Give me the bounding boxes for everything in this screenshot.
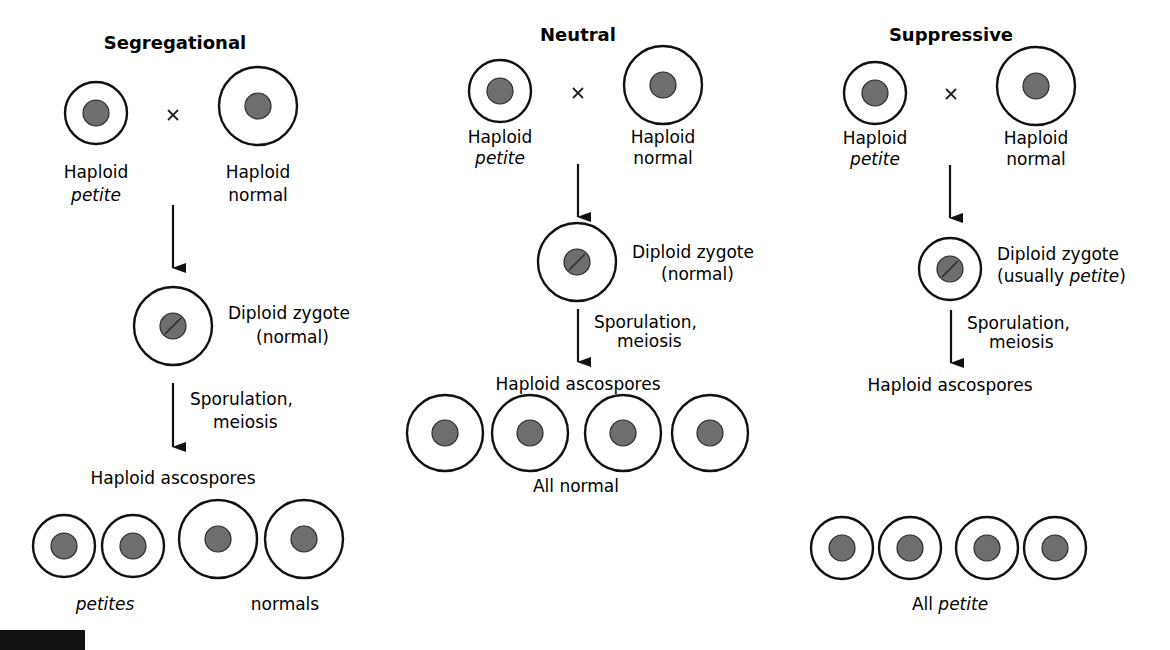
ascospore-normal bbox=[265, 500, 343, 578]
column-title: Segregational bbox=[104, 32, 246, 53]
ascospore-normal bbox=[492, 395, 568, 471]
nucleus bbox=[83, 100, 109, 126]
process-label-2: meiosis bbox=[989, 332, 1054, 352]
parent-normal-cell bbox=[997, 47, 1075, 125]
cross-icon bbox=[168, 110, 178, 120]
diploid-zygote-cell bbox=[919, 238, 981, 300]
ascospore-normal bbox=[407, 395, 483, 471]
cross-icon bbox=[946, 89, 956, 99]
ascospore-petite bbox=[956, 517, 1018, 579]
parent-normal-type: normal bbox=[633, 148, 693, 168]
column-segregational: Segregational Haploid petite Haploid nor… bbox=[33, 32, 350, 614]
parent-normal-label: Haploid bbox=[226, 162, 291, 182]
process-label: Sporulation, bbox=[190, 389, 293, 409]
parent-petite-type: petite bbox=[474, 148, 525, 168]
zygote-label: Diploid zygote bbox=[997, 244, 1119, 264]
process-label-2: meiosis bbox=[617, 331, 682, 351]
nucleus bbox=[245, 93, 271, 119]
ascospore-row bbox=[407, 395, 748, 471]
parent-petite-cell bbox=[469, 60, 531, 122]
zygote-label: Diploid zygote bbox=[632, 242, 754, 262]
column-neutral: Neutral Haploid petite Haploid normal Di… bbox=[407, 24, 754, 496]
parent-petite-label: Haploid bbox=[843, 128, 908, 148]
zygote-type: (normal) bbox=[661, 264, 734, 284]
parent-normal-cell bbox=[624, 46, 702, 124]
ascospore-row bbox=[33, 500, 343, 578]
column-title: Neutral bbox=[540, 24, 616, 45]
parent-normal-type: normal bbox=[228, 185, 288, 205]
page-tab-marker bbox=[0, 630, 85, 650]
parent-normal-label: Haploid bbox=[631, 127, 696, 147]
parent-petite-label: Haploid bbox=[468, 127, 533, 147]
result-label-normals: normals bbox=[251, 594, 320, 614]
ascospore-petite bbox=[811, 517, 873, 579]
ascospore-row bbox=[811, 517, 1086, 579]
parent-petite-cell bbox=[844, 62, 906, 124]
parent-petite-type: petite bbox=[70, 185, 121, 205]
ascospores-label: Haploid ascospores bbox=[495, 374, 660, 394]
parent-normal-label: Haploid bbox=[1004, 128, 1069, 148]
ascospores-label: Haploid ascospores bbox=[90, 468, 255, 488]
ascospore-petite bbox=[879, 517, 941, 579]
ascospore-normal bbox=[672, 395, 748, 471]
zygote-label: Diploid zygote bbox=[228, 303, 350, 323]
parent-petite-cell bbox=[65, 82, 127, 144]
column-title: Suppressive bbox=[889, 24, 1013, 45]
column-suppressive: Suppressive Haploid petite Haploid norma… bbox=[811, 24, 1126, 614]
result-label: All petite bbox=[912, 594, 988, 614]
ascospores-label: Haploid ascospores bbox=[867, 375, 1032, 395]
petite-inheritance-diagram: Segregational Haploid petite Haploid nor… bbox=[0, 0, 1170, 650]
ascospore-petite bbox=[33, 515, 95, 577]
process-label-2: meiosis bbox=[213, 412, 278, 432]
ascospore-normal bbox=[585, 395, 661, 471]
result-label: All normal bbox=[533, 476, 619, 496]
process-label: Sporulation, bbox=[594, 312, 697, 332]
ascospore-petite bbox=[1024, 517, 1086, 579]
cross-icon bbox=[573, 88, 583, 98]
zygote-type: (usually petite) bbox=[997, 266, 1126, 286]
process-label: Sporulation, bbox=[967, 313, 1070, 333]
result-label-petites: petites bbox=[75, 594, 135, 614]
parent-petite-type: petite bbox=[849, 149, 900, 169]
ascospore-petite bbox=[102, 515, 164, 577]
diploid-zygote-cell bbox=[134, 287, 212, 365]
parent-petite-label: Haploid bbox=[64, 162, 129, 182]
diploid-zygote-cell bbox=[538, 223, 616, 301]
zygote-type: (normal) bbox=[256, 327, 329, 347]
ascospore-normal bbox=[179, 500, 257, 578]
parent-normal-cell bbox=[219, 67, 297, 145]
parent-normal-type: normal bbox=[1006, 149, 1066, 169]
